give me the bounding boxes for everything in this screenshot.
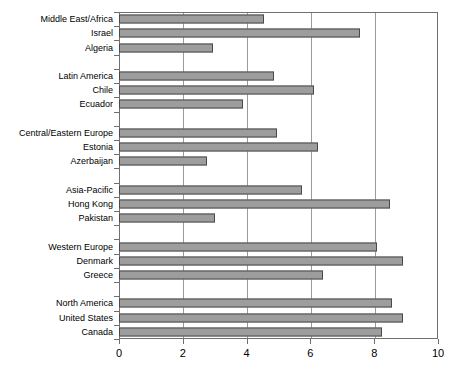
x-axis-tick — [183, 339, 184, 344]
y-axis-label: Hong Kong — [68, 199, 113, 209]
y-axis-tick — [114, 126, 119, 127]
bar — [119, 271, 323, 280]
gridline-x — [375, 13, 376, 338]
y-axis-label: Denmark — [76, 256, 113, 266]
y-axis-label: Estonia — [83, 142, 113, 152]
x-axis-tick — [119, 339, 120, 344]
y-axis-tick — [114, 311, 119, 312]
gridline-x — [311, 13, 312, 338]
bar — [119, 86, 314, 95]
x-axis-label: 6 — [295, 347, 325, 360]
bar — [119, 242, 377, 251]
y-axis-label: Western Europe — [48, 242, 113, 252]
x-axis-label: 4 — [232, 347, 262, 360]
y-axis-tick — [114, 154, 119, 155]
y-axis-tick — [114, 225, 119, 226]
y-axis-tick — [114, 211, 119, 212]
bar — [119, 71, 274, 80]
y-axis-label: Pakistan — [78, 213, 113, 223]
y-axis-tick — [114, 69, 119, 70]
y-axis-label: Middle East/Africa — [40, 14, 113, 24]
y-axis-tick — [114, 140, 119, 141]
y-axis-tick — [114, 254, 119, 255]
y-axis-tick — [114, 239, 119, 240]
y-axis-tick — [114, 296, 119, 297]
y-axis-label: Israel — [91, 28, 113, 38]
bar — [119, 327, 382, 336]
bar — [119, 214, 215, 223]
y-axis-tick — [114, 55, 119, 56]
y-axis-tick — [114, 197, 119, 198]
bar — [119, 199, 390, 208]
y-axis-label: North America — [56, 298, 113, 308]
x-axis-tick — [374, 339, 375, 344]
y-axis-label: Asia-Pacific — [66, 185, 113, 195]
bar-chart: Middle East/AfricaIsraelAlgeriaLatin Ame… — [0, 0, 459, 370]
bar — [119, 256, 403, 265]
y-axis-tick — [114, 282, 119, 283]
bar — [119, 29, 360, 38]
gridline-x — [247, 13, 248, 338]
y-axis-label: United States — [59, 313, 113, 323]
x-axis-label: 0 — [104, 347, 134, 360]
y-axis-label: Ecuador — [79, 99, 113, 109]
bar — [119, 143, 318, 152]
plot-area — [119, 12, 438, 339]
bar — [119, 128, 277, 137]
y-axis-tick — [114, 325, 119, 326]
x-axis-label: 8 — [359, 347, 389, 360]
bar — [119, 185, 302, 194]
y-axis-label: Greece — [83, 270, 113, 280]
y-axis-label: Chile — [92, 85, 113, 95]
y-axis-label: Canada — [81, 327, 113, 337]
y-axis-labels: Middle East/AfricaIsraelAlgeriaLatin Ame… — [0, 12, 113, 339]
y-axis-tick — [114, 268, 119, 269]
y-axis-label: Latin America — [58, 71, 113, 81]
y-axis-tick — [114, 183, 119, 184]
bar — [119, 299, 392, 308]
y-axis-tick — [114, 26, 119, 27]
gridline-x — [183, 13, 184, 338]
y-axis-tick — [114, 112, 119, 113]
y-axis-tick — [114, 97, 119, 98]
y-axis-label: Central/Eastern Europe — [19, 128, 113, 138]
x-axis-label: 10 — [423, 347, 453, 360]
y-axis-tick — [114, 40, 119, 41]
y-axis-tick — [114, 168, 119, 169]
x-axis-tick — [310, 339, 311, 344]
bar — [119, 43, 213, 52]
x-axis-label: 2 — [168, 347, 198, 360]
bar — [119, 15, 264, 24]
bar — [119, 100, 243, 109]
y-axis-tick — [114, 83, 119, 84]
x-axis-tick — [438, 339, 439, 344]
bar — [119, 157, 207, 166]
y-axis-label: Algeria — [85, 43, 113, 53]
y-axis-tick — [114, 12, 119, 13]
y-axis-label: Azerbaijan — [70, 156, 113, 166]
bar — [119, 313, 403, 322]
x-axis-tick — [247, 339, 248, 344]
